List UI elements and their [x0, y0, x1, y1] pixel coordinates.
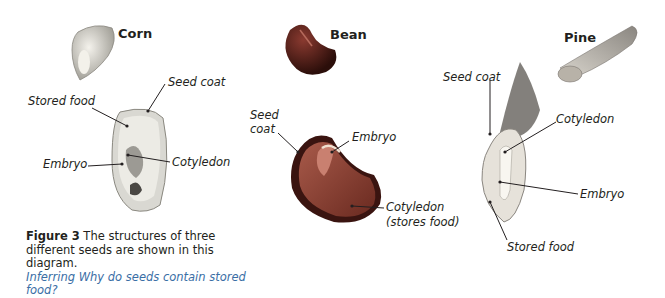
pine-label-stored-food: Stored food — [507, 240, 574, 254]
corn-kernel-icon — [72, 26, 114, 80]
figure-caption: Figure 3 The structures of three differe… — [26, 230, 256, 298]
pine-title: Pine — [564, 30, 596, 45]
pine-label-seed-coat: Seed coat — [443, 70, 500, 84]
corn-label-stored-food: Stored food — [28, 94, 95, 108]
skill-label: Inferring — [26, 270, 75, 284]
pine-section-icon — [482, 62, 540, 222]
bean-label-stores-food: (stores food) — [386, 215, 459, 229]
corn-label-cotyledon: Cotyledon — [172, 155, 230, 169]
bean-whole-icon — [285, 25, 336, 75]
bean-section-icon — [291, 136, 381, 223]
pine-label-cotyledon: Cotyledon — [556, 112, 614, 126]
pine-label-embryo: Embryo — [580, 187, 624, 201]
corn-label-embryo: Embryo — [43, 157, 87, 171]
corn-label-seed-coat: Seed coat — [168, 75, 225, 89]
bean-label-seed-coat: Seed coat — [250, 108, 290, 136]
figure-number: Figure 3 — [26, 229, 80, 243]
bean-label-embryo: Embryo — [352, 130, 396, 144]
bean-label-cotyledon: Cotyledon — [386, 200, 444, 214]
bean-title: Bean — [330, 27, 367, 42]
corn-title: Corn — [118, 26, 152, 41]
